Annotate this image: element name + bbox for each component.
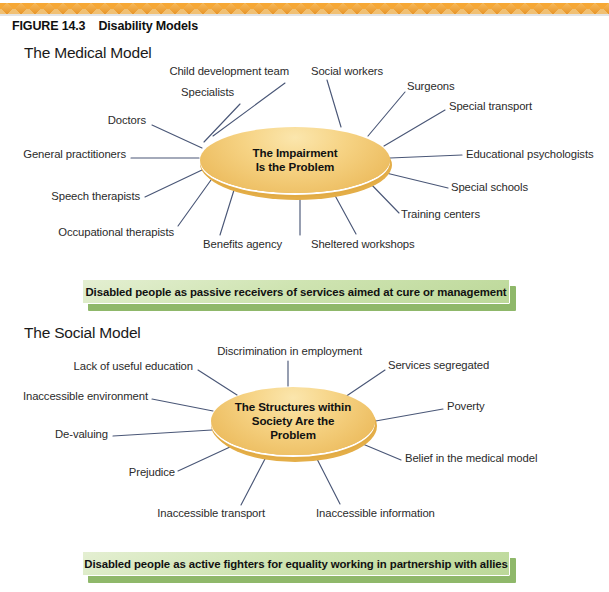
spoke-label-prejudice: Prejudice (129, 466, 175, 478)
social-hub-text: The Structures within Society Are the Pr… (235, 400, 351, 442)
spoke-label-services-segregated: Services segregated (388, 359, 489, 371)
spoke-label-discrimination-in-employment: Discrimination in employment (217, 345, 362, 357)
spoke-label-inaccessible-environment: Inaccessible environment (23, 390, 148, 402)
spoke-label-inaccessible-information: Inaccessible information (316, 507, 435, 519)
social-hub-line-2: Society Are the (252, 414, 334, 427)
social-model-hub: The Structures within Society Are the Pr… (211, 387, 375, 455)
spoke-label-belief-in-the-medical-model: Belief in the medical model (405, 452, 537, 464)
social-hub-line-1: The Structures within (235, 400, 351, 413)
social-model-banner: Disabled people as active fighters for e… (82, 551, 510, 576)
spoke-label-inaccessible-transport: Inaccessible transport (157, 507, 265, 519)
social-model-diagram: The Structures within Society Are the Pr… (0, 0, 609, 592)
social-banner-text: Disabled people as active fighters for e… (84, 558, 507, 570)
social-banner-body: Disabled people as active fighters for e… (82, 551, 510, 576)
social-hub-line-3: Problem (270, 428, 316, 441)
spoke-label-lack-of-useful-education: Lack of useful education (74, 360, 193, 372)
spoke-label-de-valuing: De-valuing (55, 428, 108, 440)
social-model-spoke-lines (0, 0, 609, 592)
spoke-label-poverty: Poverty (447, 400, 485, 412)
